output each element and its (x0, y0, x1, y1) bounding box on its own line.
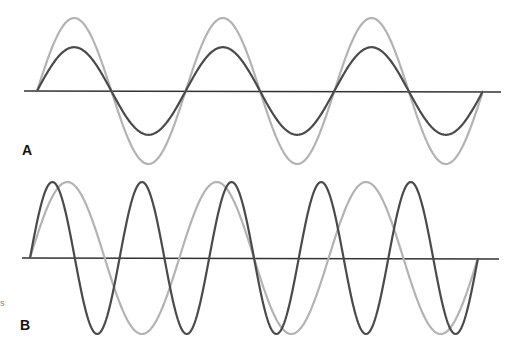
panel-b-label: B (20, 317, 30, 333)
panel-a-label: A (22, 142, 32, 158)
panel-a-baseline (24, 91, 501, 92)
panel-b-baseline (22, 258, 499, 259)
waveform-figure (0, 0, 517, 347)
cropped-text-fragment: s (0, 298, 5, 308)
panel-b (22, 182, 499, 334)
panel-a (24, 18, 501, 164)
